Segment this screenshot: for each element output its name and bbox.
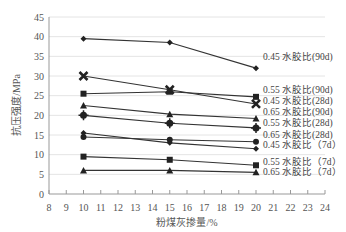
diamond-marker	[253, 65, 259, 71]
x-tick-label: 19	[234, 202, 244, 213]
y-tick-label: 25	[34, 90, 44, 101]
y-tick-label: 20	[34, 110, 44, 121]
series-label: 0.65 水胶比(90d)	[263, 106, 333, 118]
series-label: 0.55 水胶比（7d）	[263, 156, 342, 167]
x-tick-label: 23	[303, 202, 313, 213]
x-tick-label: 16	[182, 202, 192, 213]
x-tick-label: 12	[113, 202, 123, 213]
diamond-marker	[167, 40, 173, 46]
y-tick-label: 35	[34, 51, 44, 62]
y-tick-label: 10	[34, 149, 44, 160]
y-tick-label: 5	[39, 169, 44, 180]
x-axis-title: 粉煤灰掺量/%	[156, 216, 217, 228]
series-label: 0.55 水胶比(90d)	[263, 84, 333, 96]
x-tick-label: 9	[64, 202, 69, 213]
square-marker	[253, 162, 259, 168]
square-marker	[81, 154, 87, 160]
square-marker	[81, 91, 87, 97]
x-tick-label: 22	[286, 202, 296, 213]
x-tick-label: 8	[47, 202, 52, 213]
x-tick-label: 13	[130, 202, 140, 213]
x-tick-label: 14	[148, 202, 158, 213]
y-tick-label: 30	[34, 71, 44, 82]
square-marker	[167, 157, 173, 163]
circle-marker	[253, 139, 259, 145]
x-tick-label: 17	[199, 202, 209, 213]
series-label: 0.55 水胶比(28d)	[263, 117, 333, 129]
chart-svg: 0510152025303540458910111213141516171819…	[0, 0, 346, 232]
series-label: 0.45 水胶比（7d）	[263, 139, 342, 150]
x-tick-label: 11	[96, 202, 106, 213]
series-label: 0.45 水胶比(28d)	[263, 95, 333, 107]
x-tick-label: 20	[251, 202, 261, 213]
y-tick-label: 15	[34, 130, 44, 141]
series-label: 0.45 水胶比(90d)	[263, 51, 333, 63]
square-marker	[253, 94, 259, 100]
x-tick-label: 10	[79, 202, 89, 213]
diamond-marker	[253, 146, 259, 152]
y-axis-title: 抗压强度/MPa	[10, 74, 22, 136]
x-tick-label: 24	[320, 202, 330, 213]
chart: 0510152025303540458910111213141516171819…	[0, 0, 346, 232]
x-tick-label: 21	[268, 202, 278, 213]
series-label: 0.65 水胶比（7d）	[263, 166, 342, 177]
x-tick-label: 15	[165, 202, 175, 213]
x-tick-label: 18	[217, 202, 227, 213]
y-tick-label: 45	[34, 12, 44, 23]
y-tick-label: 0	[39, 189, 44, 200]
y-tick-label: 40	[34, 31, 44, 42]
